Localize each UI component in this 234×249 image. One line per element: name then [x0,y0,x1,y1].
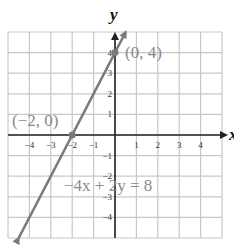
point-label-y-intercept: (0, 4) [125,43,162,62]
y-tick-label: 3 [108,68,113,78]
y-tick-label: −4 [102,212,112,222]
y-tick-label: 1 [108,109,113,119]
x-axis-label: x [228,125,234,144]
x-tick-label: −4 [25,140,35,150]
plotted-point [69,132,76,139]
plotted-point [112,49,119,56]
x-tick-label: 1 [134,140,139,150]
x-tick-label: 3 [177,140,182,150]
x-tick-label: −1 [89,140,99,150]
x-tick-label: −3 [46,140,56,150]
x-tick-label: 4 [198,140,203,150]
y-tick-label: −1 [102,151,112,161]
equation-label: −4x + 2y = 8 [64,176,152,195]
coordinate-plane: −4−3−2−112344321−1−2−3−4 y x (0, 4) (−2,… [0,0,234,249]
y-tick-label: 2 [108,89,113,99]
y-axis-label: y [108,5,118,24]
x-tick-label: 2 [156,140,161,150]
axes [8,34,226,238]
point-label-x-intercept: (−2, 0) [12,111,58,130]
